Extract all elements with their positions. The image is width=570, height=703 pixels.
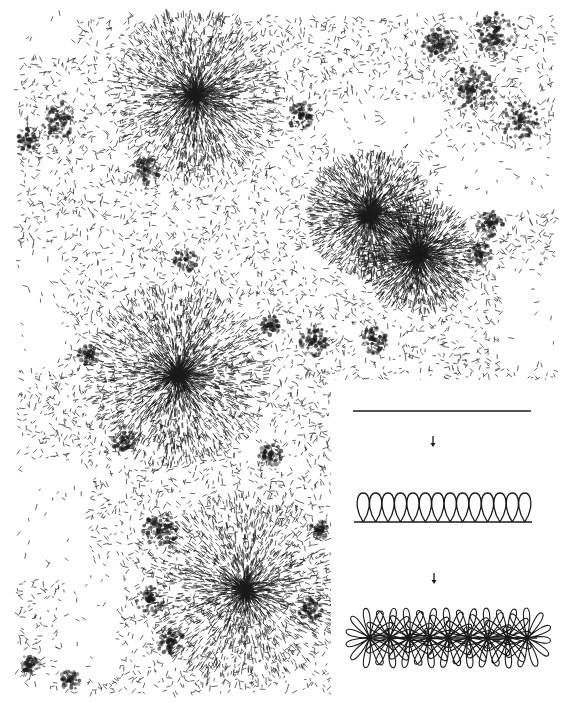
- fiber-loops: [357, 493, 531, 522]
- fiber-folding-diagram: [331, 380, 570, 703]
- inset-diagram: [331, 380, 570, 703]
- figure: [0, 0, 570, 703]
- arrowhead-icon: [431, 443, 436, 447]
- arrowhead-icon: [432, 580, 437, 584]
